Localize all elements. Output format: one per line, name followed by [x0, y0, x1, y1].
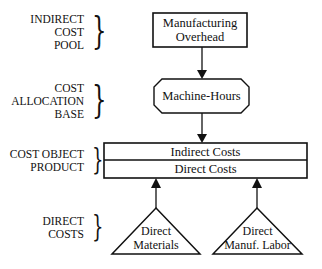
arrowhead-icon [151, 178, 161, 188]
arrowhead-icon [252, 178, 262, 188]
node-line: Manuf. Labor [213, 238, 302, 252]
direct-labor-text: Direct Manuf. Labor [213, 224, 302, 252]
label-line: PRODUCT [10, 161, 84, 174]
overhead-text: Manufacturing Overhead [153, 16, 247, 44]
brace-icon: } [92, 11, 107, 49]
label-line: INDIRECT [30, 13, 84, 26]
direct-materials-text: Direct Materials [112, 224, 200, 252]
brace-icon: } [92, 144, 103, 174]
node-line: Manufacturing [153, 16, 247, 30]
label-line: POOL [30, 39, 84, 52]
machine-hours-text: Machine-Hours [154, 89, 249, 103]
label-indirect-cost-pool: INDIRECT COST POOL [30, 13, 84, 52]
label-line: BASE [11, 108, 84, 121]
label-line: COST [30, 26, 84, 39]
node-line: Materials [112, 238, 200, 252]
label-direct-costs: DIRECT COSTS [42, 215, 84, 241]
brace-icon: } [92, 80, 107, 118]
label-line: ALLOCATION [11, 95, 84, 108]
node-line: Overhead [153, 30, 247, 44]
label-line: COSTS [42, 228, 84, 241]
label-line: COST [11, 82, 84, 95]
node-line: Direct [112, 224, 200, 238]
node-line: Direct [213, 224, 302, 238]
direct-costs-text: Direct Costs [104, 162, 307, 176]
label-cost-object: COST OBJECT PRODUCT [10, 148, 84, 174]
brace-icon: } [92, 211, 103, 241]
label-line: COST OBJECT [10, 148, 84, 161]
indirect-costs-text: Indirect Costs [104, 145, 307, 159]
label-cost-allocation-base: COST ALLOCATION BASE [11, 82, 84, 121]
arrowhead-icon [197, 70, 207, 79]
label-line: DIRECT [42, 215, 84, 228]
arrowhead-icon [197, 134, 207, 143]
